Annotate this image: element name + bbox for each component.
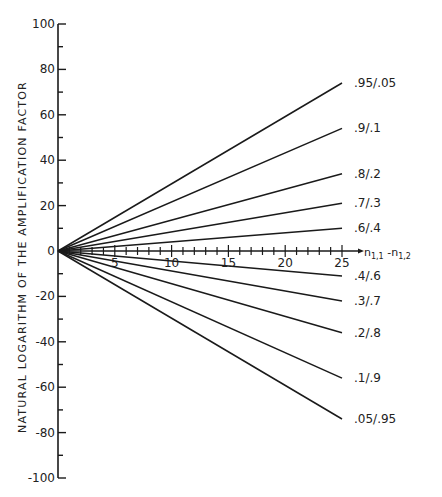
- x-tick-label: 20: [278, 256, 293, 270]
- amplification-factor-chart: 100806040200-20-40-60-80-100 510152025 .…: [0, 0, 442, 497]
- x-axis-label: n1,1 -n1,2: [364, 246, 411, 261]
- y-tick-label: -100: [28, 471, 55, 485]
- x-axis: 510152025: [58, 245, 364, 270]
- series-line: [58, 83, 342, 251]
- series-line: [58, 203, 342, 251]
- series-label: .8/.2: [354, 167, 381, 181]
- y-tick-label: 60: [40, 108, 55, 122]
- y-tick-label: 100: [32, 17, 55, 31]
- y-tick-label: -60: [35, 380, 55, 394]
- x-tick-label: 10: [164, 256, 179, 270]
- series-label: .6/.4: [354, 221, 381, 235]
- series-label: .7/.3: [354, 196, 381, 210]
- series-label: .9/.1: [354, 121, 381, 135]
- y-tick-label: -80: [35, 426, 55, 440]
- y-tick-label: 80: [40, 62, 55, 76]
- x-tick-label: 25: [334, 256, 349, 270]
- y-tick-label: 40: [40, 153, 55, 167]
- series-line: [58, 128, 342, 251]
- series-label: .4/.6: [354, 269, 381, 283]
- series-label: .05/.95: [354, 412, 396, 426]
- series-label: .95/.05: [354, 76, 396, 90]
- y-tick-label: -40: [35, 335, 55, 349]
- series-label: .2/.8: [354, 326, 381, 340]
- series-label: .3/.7: [354, 294, 381, 308]
- x-tick-label: 15: [221, 256, 236, 270]
- y-tick-label: 0: [47, 244, 55, 258]
- y-tick-label: -20: [35, 289, 55, 303]
- series-label: .1/.9: [354, 371, 381, 385]
- series-line: [58, 251, 342, 378]
- y-axis-label: NATURAL LOGARITHM OF THE AMPLIFICATION F…: [16, 81, 29, 433]
- y-tick-label: 20: [40, 199, 55, 213]
